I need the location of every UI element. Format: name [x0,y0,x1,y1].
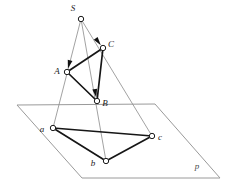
label-S: S [71,3,76,13]
vertex-marker-C [100,45,105,50]
label-B: B [102,98,108,108]
edge-B-C [97,48,103,101]
label-C: C [108,39,115,49]
figure-canvas: S C A B a b c p [0,0,234,192]
label-plane-p: p [194,161,200,171]
edge-a-b [53,128,106,161]
label-c: c [158,132,162,142]
arrowhead-icon-at-C [94,37,101,45]
label-A: A [53,66,60,76]
projection-figure: S C A B a b c p [0,0,234,192]
vertex-marker-B [94,98,99,103]
label-b: b [91,158,96,168]
edge-b-c [106,136,152,161]
plane-p-outline [17,104,220,178]
vertex-marker-c [149,133,154,138]
arrowhead-icon-at-A [68,60,73,69]
edge-c-a [53,128,152,136]
vertex-marker-S [78,16,83,21]
vertex-marker-b [103,158,108,163]
vertex-marker-a [50,125,55,130]
label-a: a [40,124,45,134]
vertex-marker-A [64,69,69,74]
